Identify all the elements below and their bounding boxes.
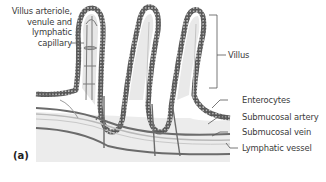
label-villus: Villus: [228, 50, 249, 61]
panel-label: (a): [13, 150, 29, 161]
label-line: Villus arteriole,: [2, 6, 72, 17]
label-villus-vessels: Villus arteriole, venule and lymphatic c…: [2, 6, 72, 48]
label-lymphatic-vessel: Lymphatic vessel: [242, 143, 312, 154]
label-line: lymphatic: [2, 27, 72, 38]
label-submucosal-artery: Submucosal artery: [242, 112, 318, 123]
villi-diagram: Villus arteriole, venule and lymphatic c…: [0, 0, 326, 182]
label-line: venule and: [2, 17, 72, 28]
label-line: capillary: [2, 38, 72, 49]
villus-core-1: [82, 14, 98, 105]
label-submucosal-vein: Submucosal vein: [242, 127, 311, 138]
label-enterocytes: Enterocytes: [242, 95, 290, 106]
